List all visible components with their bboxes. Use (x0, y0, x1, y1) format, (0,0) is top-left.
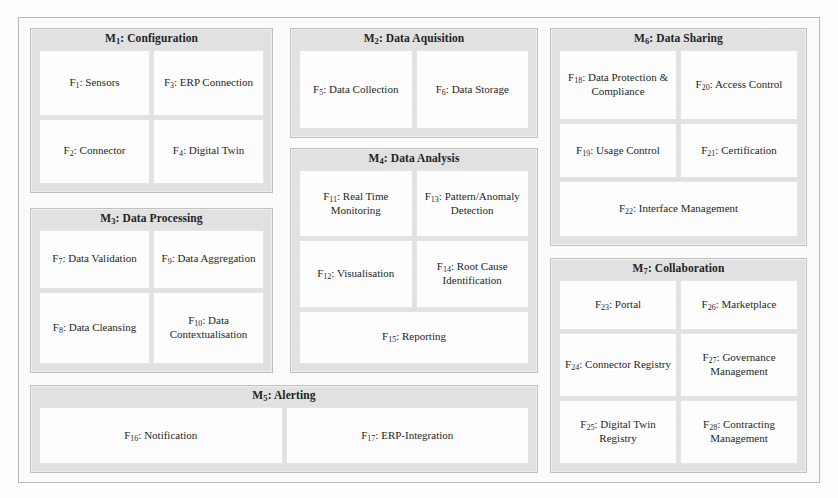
function-f23-portal[interactable]: F23: Portal (559, 280, 677, 330)
function-f11-real-time-monitoring[interactable]: F11: Real Time Monitoring (299, 170, 413, 237)
function-f21-certification[interactable]: F21: Certification (680, 123, 798, 179)
function-row: F24: Connector Registry F27: Governance … (559, 333, 798, 397)
module-m5-alerting[interactable]: M5: Alerting F16: Notification F17: ERP-… (30, 385, 538, 473)
function-f3-erp-connection[interactable]: F3: ERP Connection (153, 50, 264, 116)
function-row: F2: Connector F4: Digital Twin (39, 119, 264, 185)
function-row: F5: Data Collection F6: Data Storage (299, 50, 529, 129)
function-f24-connector-registry[interactable]: F24: Connector Registry (559, 333, 677, 397)
function-f17-erp-integration[interactable]: F17: ERP-Integration (286, 407, 530, 464)
function-row: F19: Usage Control F21: Certification (559, 123, 798, 179)
module-title-m7: M7: Collaboration (551, 259, 806, 278)
function-row: F22: Interface Management (559, 181, 798, 237)
module-title-m4: M4: Data Analysis (291, 149, 537, 168)
module-m2-data-aquisition[interactable]: M2: Data Aquisition F5: Data Collection … (290, 28, 538, 138)
function-f25-digital-twin-registry[interactable]: F25: Digital Twin Registry (559, 400, 677, 464)
module-m3-function-grid: F7: Data Validation F9: Data Aggregation… (39, 230, 264, 364)
function-f15-reporting[interactable]: F15: Reporting (299, 311, 529, 365)
module-m2-function-grid: F5: Data Collection F6: Data Storage (299, 50, 529, 129)
function-f6-data-storage[interactable]: F6: Data Storage (416, 50, 530, 129)
function-row: F1: Sensors F3: ERP Connection (39, 50, 264, 116)
function-f19-usage-control[interactable]: F19: Usage Control (559, 123, 677, 179)
module-m6-data-sharing[interactable]: M6: Data Sharing F18: Data Protection & … (550, 28, 807, 246)
function-f16-notification[interactable]: F16: Notification (39, 407, 283, 464)
function-f8-data-cleansing[interactable]: F8: Data Cleansing (39, 292, 150, 364)
function-f28-contracting-management[interactable]: F28: Contracting Management (680, 400, 798, 464)
function-f7-data-validation[interactable]: F7: Data Validation (39, 230, 150, 289)
module-title-m6: M6: Data Sharing (551, 29, 806, 48)
function-f27-governance-management[interactable]: F27: Governance Management (680, 333, 798, 397)
function-f22-interface-management[interactable]: F22: Interface Management (559, 181, 798, 237)
function-row: F23: Portal F26: Marketplace (559, 280, 798, 330)
function-f9-data-aggregation[interactable]: F9: Data Aggregation (153, 230, 264, 289)
function-row: F18: Data Protection & Compliance F20: A… (559, 50, 798, 120)
module-m4-data-analysis[interactable]: M4: Data Analysis F11: Real Time Monitor… (290, 148, 538, 373)
function-f4-digital-twin[interactable]: F4: Digital Twin (153, 119, 264, 185)
module-title-m2: M2: Data Aquisition (291, 29, 537, 48)
module-m1-function-grid: F1: Sensors F3: ERP Connection F2: Conne… (39, 50, 264, 184)
module-m6-function-grid: F18: Data Protection & Compliance F20: A… (559, 50, 798, 237)
module-m5-function-grid: F16: Notification F17: ERP-Integration (39, 407, 529, 464)
function-row: F7: Data Validation F9: Data Aggregation (39, 230, 264, 289)
function-f13-pattern-anomaly-detection[interactable]: F13: Pattern/Anomaly Detection (416, 170, 530, 237)
function-row: F8: Data Cleansing F10: Data Contextuali… (39, 292, 264, 364)
module-m7-function-grid: F23: Portal F26: Marketplace F24: Connec… (559, 280, 798, 464)
function-f2-connector[interactable]: F2: Connector (39, 119, 150, 185)
function-row: F15: Reporting (299, 311, 529, 365)
function-f20-access-control[interactable]: F20: Access Control (680, 50, 798, 120)
module-title-m3: M3: Data Processing (31, 209, 272, 228)
function-row: F16: Notification F17: ERP-Integration (39, 407, 529, 464)
diagram-canvas: M1: Configuration F1: Sensors F3: ERP Co… (0, 0, 838, 498)
function-f1-sensors[interactable]: F1: Sensors (39, 50, 150, 116)
function-row: F25: Digital Twin Registry F28: Contract… (559, 400, 798, 464)
function-f10-data-contextualisation[interactable]: F10: Data Contextualisation (153, 292, 264, 364)
function-f5-data-collection[interactable]: F5: Data Collection (299, 50, 413, 129)
module-m3-data-processing[interactable]: M3: Data Processing F7: Data Validation … (30, 208, 273, 373)
function-f12-visualisation[interactable]: F12: Visualisation (299, 240, 413, 307)
function-row: F12: Visualisation F14: Root Cause Ident… (299, 240, 529, 307)
module-m4-function-grid: F11: Real Time Monitoring F13: Pattern/A… (299, 170, 529, 364)
function-row: F11: Real Time Monitoring F13: Pattern/A… (299, 170, 529, 237)
module-m7-collaboration[interactable]: M7: Collaboration F23: Portal F26: Marke… (550, 258, 807, 473)
module-title-m1: M1: Configuration (31, 29, 272, 48)
function-f26-marketplace[interactable]: F26: Marketplace (680, 280, 798, 330)
function-f18-data-protection-compliance[interactable]: F18: Data Protection & Compliance (559, 50, 677, 120)
module-title-m5: M5: Alerting (31, 386, 537, 405)
module-m1-configuration[interactable]: M1: Configuration F1: Sensors F3: ERP Co… (30, 28, 273, 193)
function-f14-root-cause-identification[interactable]: F14: Root Cause Identification (416, 240, 530, 307)
